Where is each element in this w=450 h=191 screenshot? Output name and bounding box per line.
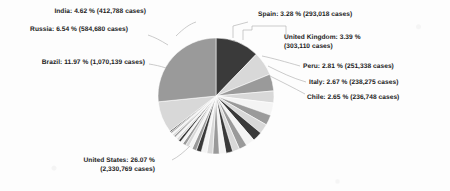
slice-label-chile: Chile: 2.65 % (236,748 cases): [307, 94, 399, 103]
slice-label-united-kingdom-line2: (303,110 cases): [284, 43, 361, 52]
slice-label-italy: Italy: 2.67 % (238,275 cases): [309, 79, 398, 88]
slice-label-peru: Peru: 2.81 % (251,338 cases): [303, 63, 394, 72]
leader-line-italy: [268, 66, 306, 82]
pie-slice-united-states: [158, 38, 216, 102]
leader-line-united-kingdom: [243, 26, 286, 40]
slice-label-united-kingdom: United Kingdom: 3.39 % (303,110 cases): [284, 34, 361, 51]
slice-label-united-states-line2: (2,330,769 cases): [0, 166, 155, 175]
slice-label-united-kingdom-line1: United Kingdom: 3.39 %: [284, 34, 361, 43]
leader-line-chile: [270, 76, 305, 94]
leader-line-india: [176, 22, 196, 36]
leader-line-brazil: [149, 64, 166, 68]
slice-label-brazil: Brazil: 11.97 % (1,070,139 cases): [0, 59, 145, 68]
leader-line-united-states: [172, 146, 190, 160]
leader-line-peru: [262, 56, 300, 66]
slice-label-united-states-line1: United States: 26.07 %: [0, 157, 155, 166]
pie-slices-group: [158, 38, 274, 154]
pie-chart-figure: India: 4.62 % (412,788 cases) Russia: 6.…: [0, 0, 450, 191]
slice-label-united-states: United States: 26.07 % (2,330,769 cases): [0, 157, 155, 174]
leader-line-russia: [148, 35, 168, 45]
slice-label-india: India: 4.62 % (412,788 cases): [0, 8, 146, 17]
slice-label-spain: Spain: 3.28 % (293,018 cases): [258, 11, 352, 20]
slice-label-russia: Russia: 6.54 % (584,680 cases): [0, 26, 128, 35]
